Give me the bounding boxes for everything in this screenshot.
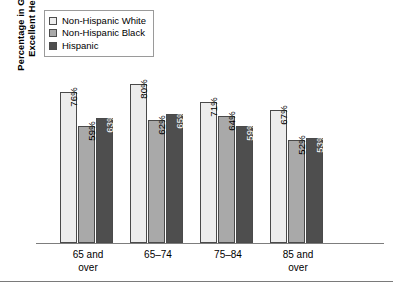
legend-swatch-icon [49, 17, 57, 25]
bar[interactable]: 59% [236, 126, 253, 243]
y-axis-title-line1: Percentage in Good to [16, 0, 27, 95]
plot-area: 76%59%63%80%62%65%71%64%59%67%52%53% [36, 60, 384, 243]
bar-value-label: 59% [87, 121, 97, 141]
bar-group-bars: 71%64%59% [200, 60, 256, 243]
bar-value-label: 67% [279, 105, 289, 125]
bar-group: 67%52%53% [270, 60, 326, 243]
category-label-line2: over [256, 262, 340, 275]
legend-item-non-hispanic-white: Non-Hispanic White [49, 15, 146, 27]
legend-swatch-icon [49, 29, 57, 37]
bar-value-label: 62% [157, 115, 167, 135]
bar-group: 80%62%65% [130, 60, 186, 243]
bar[interactable]: 53% [306, 138, 323, 243]
bar-value-label: 63% [105, 113, 115, 133]
bar-value-label: 76% [69, 87, 79, 107]
bar-group: 71%64%59% [200, 60, 256, 243]
bar-group-bars: 76%59%63% [60, 60, 116, 243]
bar-group: 76%59%63% [60, 60, 116, 243]
bar[interactable]: 63% [96, 118, 113, 243]
bar[interactable]: 52% [288, 140, 305, 243]
bar[interactable]: 64% [218, 116, 235, 243]
bar-group-bars: 80%62%65% [130, 60, 186, 243]
chart-figure: Non-Hispanic White Non-Hispanic Black Hi… [0, 0, 393, 295]
bar[interactable]: 71% [200, 102, 217, 243]
bar-value-label: 53% [315, 133, 325, 153]
legend-item-hispanic: Hispanic [49, 40, 146, 52]
footer-rule [0, 281, 393, 282]
bar-value-label: 80% [139, 79, 149, 99]
bar[interactable]: 59% [78, 126, 95, 243]
bar-group-bars: 67%52%53% [270, 60, 326, 243]
bar[interactable]: 67% [270, 110, 287, 243]
chart-legend: Non-Hispanic White Non-Hispanic Black Hi… [44, 10, 154, 57]
bar[interactable]: 76% [60, 92, 77, 243]
x-axis-line [36, 243, 384, 244]
legend-item-label: Non-Hispanic White [62, 16, 146, 26]
category-label-line2: over [46, 262, 130, 275]
bar-value-label: 52% [297, 135, 307, 155]
legend-item-label: Non-Hispanic Black [62, 28, 145, 38]
x-axis-category-label: 85 andover [256, 249, 340, 274]
bar-value-label: 64% [227, 111, 237, 131]
bar-value-label: 71% [209, 97, 219, 117]
bar[interactable]: 65% [166, 114, 183, 243]
bar[interactable]: 62% [148, 120, 165, 243]
category-label-line1: 85 and [256, 249, 340, 262]
legend-item-non-hispanic-black: Non-Hispanic Black [49, 27, 146, 39]
bar[interactable]: 80% [130, 84, 147, 243]
legend-item-label: Hispanic [62, 41, 98, 51]
bar-value-label: 65% [175, 109, 185, 129]
legend-swatch-icon [49, 42, 57, 50]
bar-value-label: 59% [245, 121, 255, 141]
